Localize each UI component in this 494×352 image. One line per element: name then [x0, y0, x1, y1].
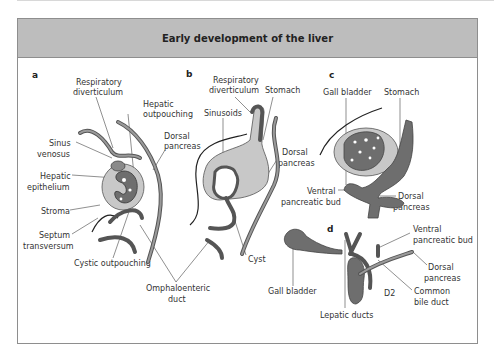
label-gall-bladder-d: Gall bladder [268, 287, 317, 296]
label-pancreatic-bud-d: pancreatic bud [413, 236, 473, 245]
panel-b-letter: b [186, 69, 193, 79]
label-sinusoids: Sinusoids [204, 109, 242, 118]
label-dorsal-pancreas-d: Dorsal [428, 263, 454, 272]
label-bile-duct: bile duct [414, 298, 449, 307]
label-epithelium: epithelium [27, 183, 70, 192]
panel-a: a Respiratory diverticulum Hepatic outpo… [23, 70, 210, 304]
label-ventral-pancreatic-bud-d: Ventral [413, 225, 441, 234]
label-ventral-pancreatic-bud-c: Ventral [307, 187, 335, 196]
label-stomach-b: Stomach [265, 86, 300, 95]
panel-a-letter: a [32, 70, 38, 80]
label-stomach-c: Stomach [384, 88, 419, 97]
label-respiratory-diverticulum-b: Respiratory [213, 76, 259, 85]
label-omphaloenteric-duct: Omphaloenteric [146, 284, 210, 293]
label-duct: duct [168, 295, 186, 304]
panel-d: d Gall bladder Ventral pancreatic bud Do… [268, 224, 473, 320]
label-lepatic-ducts: Lepatic ducts [320, 311, 373, 320]
label-transversum: transversum [23, 242, 74, 251]
label-diverticulum-a: diverticulum [73, 88, 123, 97]
panel-d-letter: d [327, 224, 333, 234]
panel-c-letter: c [329, 70, 334, 80]
label-pancreatic-bud-c: pancreatic bud [281, 198, 341, 207]
label-d2: D2 [384, 289, 395, 298]
label-stroma: Stroma [41, 207, 70, 216]
panel-c: c Gall bladder Stomach Ventral pancreati… [281, 70, 430, 218]
label-cystic-outpouching: Cystic outpouching [74, 259, 151, 268]
label-respiratory-diverticulum-a: Respiratory [76, 78, 122, 87]
label-dorsal-pancreas-a: Dorsal [164, 132, 190, 141]
label-sinus-venosus: Sinus [49, 139, 71, 148]
label-pancreas-a: pancreas [164, 142, 201, 151]
label-dorsal-pancreas-c: Dorsal [398, 192, 424, 201]
label-diverticulum-b: diverticulum [209, 86, 259, 95]
label-septum-transversum: Septum [39, 231, 70, 240]
label-outpouching: outpouching [143, 110, 193, 119]
label-hepatic-epithelium: Hepatic [40, 172, 71, 181]
label-cyst: Cyst [248, 255, 266, 264]
label-pancreas-b: pancreas [278, 159, 315, 168]
label-dorsal-pancreas-b: Dorsal [282, 148, 308, 157]
label-gall-bladder-c: Gall bladder [323, 88, 372, 97]
label-hepatic-outpouching: Hepatic [143, 100, 174, 109]
label-common-bile-duct: Common [414, 287, 450, 296]
label-pancreas-d: pancreas [424, 274, 461, 283]
label-venosus: venosus [37, 150, 70, 159]
liver-development-diagram: a Respiratory diverticulum Hepatic outpo… [0, 0, 494, 352]
